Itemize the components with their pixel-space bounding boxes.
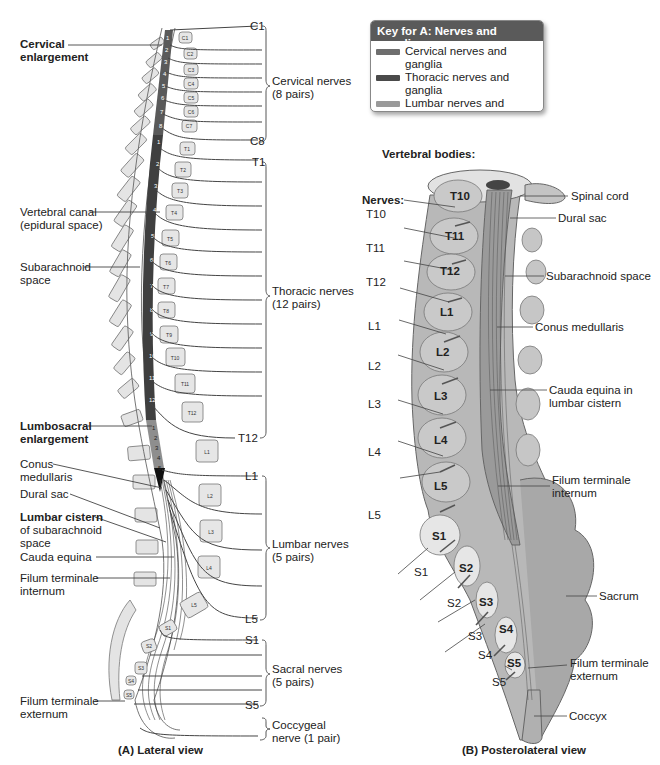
nerve-label-l4: L4 [368, 446, 381, 459]
nerve-label-t10: T10 [366, 208, 386, 221]
svg-text:11: 11 [149, 375, 156, 381]
body-label-l5: L5 [434, 480, 447, 493]
svg-text:L3: L3 [208, 529, 214, 535]
c8-label: C8 [250, 135, 265, 148]
vertebral-bodies-heading: Vertebral bodies: [382, 148, 475, 161]
svg-text:L2: L2 [207, 493, 213, 499]
conus-medullaris-label: Conusmedullaris [20, 458, 72, 484]
cervical-enlargement-label: Cervicalenlargement [20, 38, 88, 64]
thoracic-nerves-label: Thoracic nerves(12 pairs) [272, 285, 354, 311]
lumbar-cistern-label: Lumbar cisternof subarachnoidspace [20, 511, 103, 550]
body-label-s4: S4 [499, 623, 513, 636]
nerve-group-brackets [260, 26, 270, 740]
lumbar-nerves-label: Lumbar nerves(5 pairs) [272, 538, 349, 564]
svg-text:C1: C1 [182, 35, 189, 41]
svg-text:T10: T10 [171, 355, 180, 361]
body-label-s5: S5 [507, 657, 521, 670]
sacral-nerves-label: Sacral nerves(5 pairs) [272, 663, 342, 689]
body-label-t11: T11 [445, 230, 464, 243]
svg-text:12: 12 [149, 397, 156, 403]
nerve-label-l2: L2 [368, 360, 381, 373]
s1-label: S1 [245, 634, 259, 647]
coccyx-label: Coccyx [569, 710, 607, 723]
cervical-nerves-label: Cervical nerves(8 pairs) [272, 75, 351, 101]
svg-text:C6: C6 [188, 109, 195, 115]
nerve-label-s1: S1 [414, 566, 428, 579]
svg-text:S2: S2 [146, 643, 152, 649]
svg-text:L4: L4 [206, 565, 212, 571]
body-label-l4: L4 [434, 434, 447, 447]
nerve-label-t11: T11 [366, 242, 385, 255]
svg-text:T12: T12 [188, 410, 197, 416]
t1-label: T1 [252, 156, 265, 169]
svg-text:S3: S3 [138, 665, 144, 671]
svg-text:T7: T7 [163, 284, 169, 290]
filum-terminale-externum-label: Filum terminaleexternum [20, 695, 99, 721]
filum-terminale-externum-label-b: Filum terminaleexternum [570, 657, 649, 683]
l5-label: L5 [245, 613, 258, 626]
cauda-equina-label-b: Cauda equina inlumbar cistern [549, 384, 633, 410]
body-label-s1: S1 [432, 530, 446, 543]
dural-sac-label-b: Dural sac [558, 212, 607, 225]
body-label-t12: T12 [440, 265, 460, 278]
sacrum-label: Sacrum [599, 590, 639, 603]
svg-text:C2: C2 [187, 51, 194, 57]
svg-text:T2: T2 [180, 167, 186, 173]
lateral-view-illustration: 1234 5678 1234 5678 9101112 12345 [0, 0, 660, 765]
nerve-label-t12: T12 [366, 276, 386, 289]
vertebral-canal-label: Vertebral canal(epidural space) [20, 206, 102, 232]
svg-text:T8: T8 [163, 308, 169, 314]
svg-text:C3: C3 [188, 67, 195, 73]
coccygeal-nerve-label: Coccygealnerve (1 pair) [272, 719, 340, 745]
t12-label: T12 [238, 432, 258, 445]
l1-label: L1 [245, 470, 258, 483]
subarachnoid-space-label: Subarachnoidspace [20, 261, 91, 287]
body-label-s3: S3 [479, 596, 493, 609]
nerve-label-s4: S4 [478, 649, 492, 662]
lumbosacral-enlargement-label: Lumbosacralenlargement [20, 420, 92, 446]
s5-label: S5 [245, 699, 259, 712]
posterolateral-view-caption: (B) Posterolateral view [462, 744, 586, 756]
posterolateral-view-illustration [398, 170, 597, 744]
spinal-cord-label: Spinal cord [571, 190, 629, 203]
dural-sac-label: Dural sac [20, 488, 69, 501]
svg-text:T9: T9 [166, 332, 172, 338]
svg-text:T4: T4 [171, 210, 177, 216]
svg-text:C4: C4 [188, 81, 195, 87]
svg-text:T3: T3 [177, 188, 183, 194]
body-label-s2: S2 [459, 562, 473, 575]
filum-terminale-internum-label: Filum terminaleinternum [20, 572, 99, 598]
svg-text:C5: C5 [188, 95, 195, 101]
svg-text:T11: T11 [181, 381, 189, 387]
nerve-label-s2: S2 [447, 597, 461, 610]
svg-text:S5: S5 [126, 692, 132, 698]
cauda-equina-label: Cauda equina [20, 551, 92, 564]
svg-text:S4: S4 [128, 678, 134, 684]
svg-text:T6: T6 [165, 260, 171, 266]
body-label-t10: T10 [450, 190, 470, 203]
svg-text:L1: L1 [204, 449, 210, 455]
nerve-label-s3: S3 [468, 630, 482, 643]
c1-label: C1 [250, 20, 265, 33]
filum-terminale-internum-label-b: Filum terminaleinternum [552, 474, 631, 500]
svg-text:S1: S1 [165, 625, 171, 631]
body-label-l3: L3 [434, 390, 447, 403]
svg-text:T5: T5 [167, 236, 173, 242]
nerve-label-l1: L1 [368, 320, 381, 333]
body-label-l2: L2 [436, 346, 449, 359]
lateral-view-caption: (A) Lateral view [118, 744, 203, 756]
body-label-l1: L1 [440, 306, 453, 319]
subarachnoid-space-label-b: Subarachnoid space [546, 270, 651, 283]
svg-text:L5: L5 [191, 602, 197, 608]
conus-medullaris-label-b: Conus medullaris [535, 321, 624, 334]
nerve-label-l5: L5 [368, 509, 381, 522]
svg-text:C7: C7 [186, 123, 193, 129]
svg-text:T1: T1 [184, 146, 190, 152]
nerve-label-s5: S5 [492, 676, 506, 689]
nerve-label-l3: L3 [368, 398, 381, 411]
nerves-heading: Nerves: [362, 194, 404, 207]
